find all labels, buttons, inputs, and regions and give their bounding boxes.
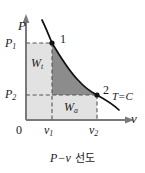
y-tick-label-p1: P1 bbox=[5, 37, 16, 51]
state-point-2-marker bbox=[94, 92, 99, 97]
y-axis-label: P bbox=[18, 19, 26, 32]
y-tick-p2-sub: 2 bbox=[12, 93, 16, 102]
y-tick-label-p2: P2 bbox=[5, 88, 16, 102]
figure-caption-korean: 선도 bbox=[75, 152, 95, 165]
region-wa-label: Wa bbox=[64, 101, 78, 115]
region-wt-shading bbox=[26, 43, 52, 120]
region-under-curve-shading bbox=[52, 43, 97, 95]
figure-caption: P−v선도 bbox=[0, 149, 145, 166]
x-tick-label-v1: v1 bbox=[44, 124, 53, 138]
pv-diagram-figure: P v 0 P1 P2 v1 v2 1 2 T=C Wt Wa P−v선도 bbox=[0, 0, 145, 173]
region-wa-sub: a bbox=[74, 106, 78, 115]
figure-caption-math: P−v bbox=[50, 151, 71, 165]
region-wt-sub: t bbox=[41, 62, 43, 71]
plot-area: P v 0 P1 P2 v1 v2 1 2 T=C Wt Wa bbox=[0, 0, 145, 145]
x-axis-label: v bbox=[131, 112, 137, 125]
state-point-1-label: 1 bbox=[60, 33, 66, 45]
state-point-2-label: 2 bbox=[103, 84, 109, 96]
isotherm-label: T=C bbox=[112, 91, 133, 102]
state-point-1-marker bbox=[49, 40, 54, 45]
origin-label: 0 bbox=[16, 124, 22, 136]
region-wa-base: W bbox=[64, 100, 74, 114]
region-wt-base: W bbox=[31, 56, 41, 70]
x-tick-v1-sub: 1 bbox=[49, 129, 53, 138]
y-tick-p1-sub: 1 bbox=[12, 42, 16, 51]
x-tick-label-v2: v2 bbox=[89, 124, 98, 138]
region-wt-label: Wt bbox=[31, 57, 43, 71]
x-tick-v2-sub: 2 bbox=[94, 129, 98, 138]
